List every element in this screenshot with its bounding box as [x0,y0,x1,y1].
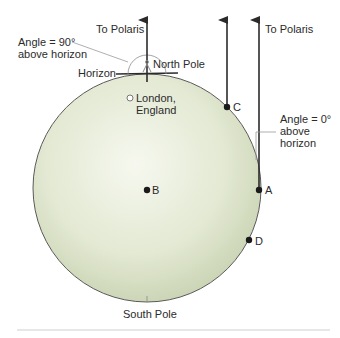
angle-90-label-line2: above horizon [18,48,87,60]
point-d-dot [246,237,252,243]
point-c-label: C [233,101,241,113]
london-marker [127,95,133,101]
horizon-label: Horizon [78,67,116,79]
north-pole-label: North Pole [153,58,205,70]
to-polaris-label-left: To Polaris [96,23,145,35]
angle-0-label-line1: Angle = 0° [280,113,331,125]
angle-0-label-line2: above [280,125,310,137]
london-label-line1: London, [136,92,176,104]
angle-0-label-line3: horizon [280,137,316,149]
to-polaris-label-right: To Polaris [265,23,314,35]
point-a-label: A [265,184,273,196]
point-d-label: D [255,235,263,247]
point-c-dot [224,104,230,110]
south-pole-label: South Pole [123,308,177,320]
point-a-dot [256,187,262,193]
angle-90-label-line1: Angle = 90° [18,36,75,48]
london-label-line2: England [136,104,176,116]
earth-diagram: To Polaris To Polaris Angle = 90° above … [0,0,340,338]
point-b-dot [144,187,150,193]
point-b-label: B [152,184,159,196]
